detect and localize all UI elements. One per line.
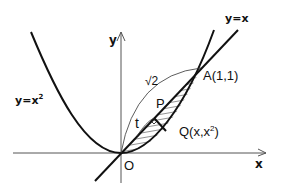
point-a-label: A(1,1) xyxy=(203,68,238,83)
point-q-label: Q(x,x2) xyxy=(179,124,219,139)
y-axis-label: y xyxy=(109,33,117,47)
x-axis xyxy=(13,149,266,156)
math-diagram: y x O y=x y=x2 A(1,1) P Q(x,x2) √2 t xyxy=(0,0,281,194)
parabola-curve xyxy=(31,33,121,166)
origin-label: O xyxy=(124,158,134,173)
line-y-equals-x xyxy=(95,30,238,181)
arc-length-label: √2 xyxy=(145,74,159,88)
x-axis-label: x xyxy=(255,157,263,171)
parabola-label: y=x2 xyxy=(15,93,43,107)
line-label: y=x xyxy=(225,12,248,25)
t-label: t xyxy=(135,115,139,131)
point-p-label: P xyxy=(156,96,165,111)
